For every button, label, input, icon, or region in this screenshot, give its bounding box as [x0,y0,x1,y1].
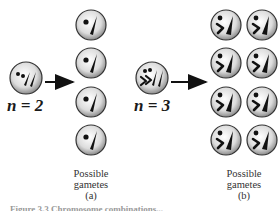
gametes-b [211,10,277,155]
ploidy-label-a: n = 2 [7,96,43,116]
caption-b: Possible gametes (b) [214,168,274,201]
parent-cell-a [10,62,42,94]
caption-a: Possible gametes (a) [61,168,121,201]
ploidy-label-b: n = 3 [134,96,170,116]
figure-caption: Figure 3.3 Chromosome combinations... [10,204,163,211]
parent-cell-b [136,62,168,94]
gametes-a [76,10,106,155]
